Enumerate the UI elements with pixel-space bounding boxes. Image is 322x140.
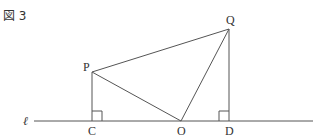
segment-qo [181,29,229,121]
point-label-d: D [225,124,234,138]
point-label-p: P [83,60,90,74]
point-label-o: O [177,124,186,138]
right-angle-mark-d [219,111,229,121]
point-label-c: C [88,124,96,138]
segment-pq [92,29,229,72]
segment-po [92,72,181,121]
line-label-l: ℓ [23,114,28,128]
right-angle-mark-c [92,111,102,121]
geometry-diagram: ℓ P Q C O D [0,0,322,140]
point-label-q: Q [226,13,235,27]
